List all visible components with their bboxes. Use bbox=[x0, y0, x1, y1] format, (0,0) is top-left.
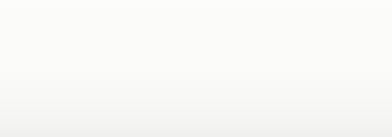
node-k[interactable]: ㄎ bbox=[24, 88, 86, 132]
diagram-canvas: ㄍㄐㄒㄓ、ㄕㄎㄑㄔ、ㄖ bbox=[0, 0, 392, 137]
node-x[interactable]: ㄒ bbox=[205, 12, 267, 62]
node-q-label: ㄑ bbox=[138, 101, 155, 117]
arrow-k-to-j-icon bbox=[78, 52, 118, 96]
node-k-label: ㄎ bbox=[47, 101, 64, 117]
arrow-g-to-j-icon bbox=[84, 26, 114, 46]
node-q[interactable]: ㄑ bbox=[114, 88, 178, 132]
arrow-q-to-zhsh-icon bbox=[168, 52, 210, 96]
node-x-label: ㄒ bbox=[228, 28, 245, 44]
node-g-label: ㄍ bbox=[45, 27, 62, 43]
node-chr[interactable]: ㄔ、ㄖ bbox=[298, 88, 366, 132]
node-chr-label: ㄔ、ㄖ bbox=[307, 101, 358, 117]
node-g[interactable]: ㄍ bbox=[22, 8, 84, 63]
arrow-j-to-x-icon bbox=[175, 26, 205, 46]
node-j-label: ㄐ bbox=[136, 27, 153, 43]
arrow-x-to-zhsh-icon bbox=[267, 26, 297, 46]
node-zhsh[interactable]: ㄓ、ㄕ bbox=[296, 8, 364, 63]
node-zhsh-label: ㄓ、ㄕ bbox=[305, 27, 356, 43]
node-j[interactable]: ㄐ bbox=[113, 8, 175, 63]
